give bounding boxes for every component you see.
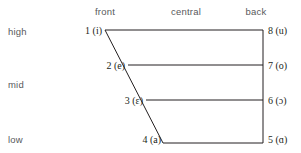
vowel-label-5: 5 (ɑ) (268, 134, 301, 145)
vowel-chart: front central back high mid low 1 (i) 2 … (0, 0, 301, 153)
vowel-label-7: 7 (o) (268, 60, 301, 71)
trapezoid-outline (105, 30, 263, 143)
vowel-label-2: 2 (e) (75, 60, 125, 71)
vowel-label-1: 1 (i) (52, 25, 102, 36)
vowel-trapezoid-shape (0, 0, 301, 153)
vowel-label-3: 3 (ɛ) (93, 95, 143, 106)
vowel-label-6: 6 (ɔ) (268, 95, 301, 106)
vowel-label-8: 8 (u) (268, 25, 301, 36)
vowel-label-4: 4 (a) (111, 134, 161, 145)
